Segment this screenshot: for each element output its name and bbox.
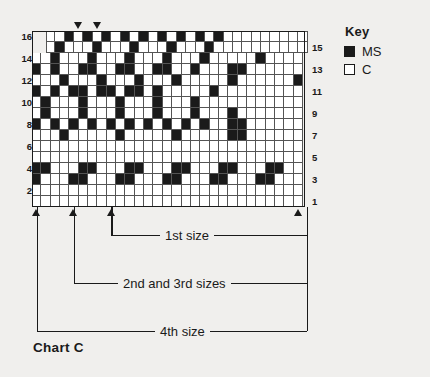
chart-cell bbox=[210, 53, 219, 64]
row-number-right: 9 bbox=[312, 108, 334, 119]
chart-cell bbox=[79, 86, 88, 97]
row-number-right: 7 bbox=[312, 130, 334, 141]
chart-cell bbox=[266, 86, 275, 97]
chart-cell bbox=[284, 64, 293, 75]
chart-cell bbox=[294, 152, 303, 163]
chart-cell bbox=[182, 141, 191, 152]
chart-cell bbox=[163, 130, 172, 141]
chart-cell bbox=[60, 75, 69, 86]
chart-cell bbox=[228, 130, 237, 141]
chart-cell bbox=[153, 163, 162, 174]
chart-cell bbox=[88, 97, 97, 108]
chart-cell bbox=[41, 130, 50, 141]
chart-cell bbox=[135, 185, 144, 196]
chart-cell bbox=[200, 119, 209, 130]
chart-cell bbox=[238, 64, 247, 75]
chart-cell bbox=[88, 163, 97, 174]
chart-cell bbox=[172, 130, 181, 141]
chart-cell bbox=[275, 130, 284, 141]
chart-cell bbox=[79, 119, 88, 130]
chart-cell bbox=[116, 185, 125, 196]
chart-cell bbox=[88, 130, 97, 141]
chart-cell bbox=[182, 174, 191, 185]
chart-cell bbox=[107, 64, 116, 75]
chart-cell bbox=[219, 108, 228, 119]
chart-cell bbox=[275, 174, 284, 185]
chart-cell bbox=[51, 53, 60, 64]
chart-cell bbox=[200, 185, 209, 196]
chart-cell bbox=[88, 185, 97, 196]
chart-cell bbox=[60, 163, 69, 174]
chart-cell bbox=[79, 130, 88, 141]
chart-cell bbox=[125, 119, 134, 130]
chart-row bbox=[32, 64, 308, 75]
chart-cell bbox=[135, 86, 144, 97]
chart-cell bbox=[210, 174, 219, 185]
chart-cell bbox=[153, 185, 162, 196]
chart-cell bbox=[191, 185, 200, 196]
chart-cell bbox=[219, 119, 228, 130]
chart-cell bbox=[41, 53, 50, 64]
chart-row bbox=[32, 86, 308, 97]
chart-cell bbox=[60, 185, 69, 196]
chart-cell bbox=[69, 152, 78, 163]
chart-cell bbox=[275, 119, 284, 130]
chart-cell bbox=[153, 108, 162, 119]
chart-cell bbox=[41, 119, 50, 130]
chart-cell bbox=[182, 64, 191, 75]
chart-cell bbox=[51, 86, 60, 97]
chart-cell bbox=[210, 97, 219, 108]
chart-cell bbox=[153, 141, 162, 152]
chart-cell bbox=[163, 75, 172, 86]
chart-cell bbox=[266, 108, 275, 119]
chart-cell bbox=[210, 119, 219, 130]
chart-cell bbox=[130, 42, 139, 53]
chart-cell bbox=[256, 119, 265, 130]
chart-cell bbox=[280, 42, 289, 53]
chart-cell bbox=[247, 152, 256, 163]
chart-cell bbox=[275, 86, 284, 97]
chart-cell bbox=[69, 185, 78, 196]
bracket-label: 2nd and 3rd sizes bbox=[118, 277, 231, 290]
chart-cell bbox=[41, 163, 50, 174]
chart-cell bbox=[210, 130, 219, 141]
chart-cell bbox=[284, 86, 293, 97]
chart-cell bbox=[182, 163, 191, 174]
chart-cell bbox=[116, 64, 125, 75]
chart-cell bbox=[210, 75, 219, 86]
chart-cell bbox=[200, 97, 209, 108]
chart-cell bbox=[135, 119, 144, 130]
chart-cell bbox=[167, 42, 176, 53]
chart-cell bbox=[275, 97, 284, 108]
chart-cell bbox=[266, 119, 275, 130]
chart-cell bbox=[270, 42, 279, 53]
size-brackets: 1st size2nd and 3rd sizes4th size bbox=[0, 205, 340, 335]
chart-cell bbox=[200, 108, 209, 119]
chart-cell bbox=[294, 108, 303, 119]
chart-cell bbox=[284, 119, 293, 130]
chart-cell bbox=[224, 31, 233, 42]
key-item-c: C bbox=[344, 63, 424, 76]
chart-cell bbox=[284, 53, 293, 64]
chart-cell bbox=[247, 75, 256, 86]
chart-cell bbox=[191, 130, 200, 141]
chart-cell bbox=[210, 141, 219, 152]
row-number-left: 10 bbox=[12, 97, 32, 108]
chart-cell bbox=[41, 141, 50, 152]
chart-cell bbox=[219, 53, 228, 64]
chart-cell bbox=[228, 119, 237, 130]
chart-cell bbox=[41, 152, 50, 163]
chart-cell bbox=[270, 31, 279, 42]
chart-cell bbox=[139, 31, 148, 42]
chart-cell bbox=[144, 163, 153, 174]
chart-row bbox=[32, 108, 308, 119]
chart-cell bbox=[284, 130, 293, 141]
chart-cell bbox=[182, 152, 191, 163]
chart-cell bbox=[256, 97, 265, 108]
chart-cell bbox=[41, 64, 50, 75]
chart-cell bbox=[219, 141, 228, 152]
chart-cell bbox=[238, 163, 247, 174]
chart-cell bbox=[177, 42, 186, 53]
chart-cell bbox=[219, 130, 228, 141]
chart-cell bbox=[266, 152, 275, 163]
